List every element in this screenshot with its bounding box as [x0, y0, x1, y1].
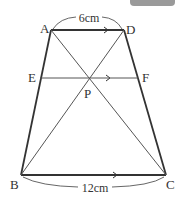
label-p: P: [84, 86, 91, 101]
measure-bc: 12cm: [82, 181, 109, 195]
label-b: B: [10, 177, 19, 192]
label-d: D: [126, 22, 135, 37]
label-a: A: [40, 21, 50, 36]
label-e: E: [28, 70, 36, 85]
label-c: C: [166, 177, 175, 192]
measure-ad: 6cm: [79, 11, 100, 25]
side-dc: [124, 30, 166, 175]
label-f: F: [142, 70, 149, 85]
trapezoid-diagram: 6cm 12cm A D E F P B C: [0, 0, 187, 211]
